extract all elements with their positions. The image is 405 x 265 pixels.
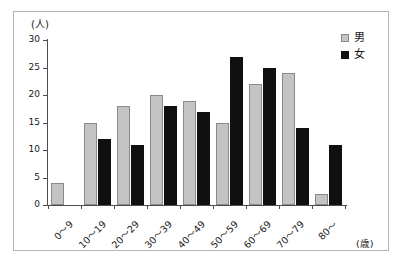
bar-female bbox=[230, 57, 243, 206]
y-axis-tick-label: 30 bbox=[24, 34, 40, 44]
chart-figure: (人) (歳) 051015202530 0〜910〜1920〜2930〜394… bbox=[0, 0, 405, 265]
x-axis-unit-label: (歳) bbox=[356, 236, 373, 250]
x-axis-tick bbox=[345, 205, 346, 209]
bar-female bbox=[329, 145, 342, 206]
legend-swatch-female-icon bbox=[341, 51, 349, 59]
x-axis-tick bbox=[279, 205, 280, 209]
y-axis-tick-label: 0 bbox=[24, 199, 40, 209]
bar-male bbox=[51, 183, 64, 205]
legend-entry-male: 男 bbox=[341, 29, 385, 46]
x-axis-tick bbox=[48, 205, 49, 209]
bar-male bbox=[315, 194, 328, 205]
y-axis-tick-label: 25 bbox=[24, 62, 40, 72]
x-axis-tick bbox=[114, 205, 115, 209]
bar-female bbox=[164, 106, 177, 205]
y-axis-tick-label: 5 bbox=[24, 172, 40, 182]
x-axis-tick bbox=[213, 205, 214, 209]
chart-legend: 男女 bbox=[341, 29, 385, 63]
bar-male bbox=[249, 84, 262, 205]
x-axis-tick bbox=[180, 205, 181, 209]
bar-male bbox=[84, 123, 97, 206]
bar-male bbox=[183, 101, 196, 206]
x-axis-tick bbox=[312, 205, 313, 209]
bar-female bbox=[263, 68, 276, 206]
x-axis-tick bbox=[147, 205, 148, 209]
legend-entry-female: 女 bbox=[341, 46, 385, 63]
x-axis-tick bbox=[246, 205, 247, 209]
x-axis-line bbox=[47, 205, 347, 206]
y-axis-tick-label: 10 bbox=[24, 144, 40, 154]
y-axis-tick-label: 15 bbox=[24, 117, 40, 127]
bar-male bbox=[150, 95, 163, 205]
legend-swatch-male-icon bbox=[341, 34, 349, 42]
bar-female bbox=[296, 128, 309, 205]
x-axis-tick bbox=[81, 205, 82, 209]
legend-label: 女 bbox=[354, 49, 365, 60]
bar-male bbox=[216, 123, 229, 206]
y-axis-unit-label: (人) bbox=[31, 16, 49, 31]
bar-male bbox=[282, 73, 295, 205]
plot-area bbox=[48, 40, 345, 205]
bar-female bbox=[98, 139, 111, 205]
bar-female bbox=[197, 112, 210, 206]
y-axis-tick-label: 20 bbox=[24, 89, 40, 99]
legend-label: 男 bbox=[354, 32, 365, 43]
bar-female bbox=[131, 145, 144, 206]
bar-male bbox=[117, 106, 130, 205]
